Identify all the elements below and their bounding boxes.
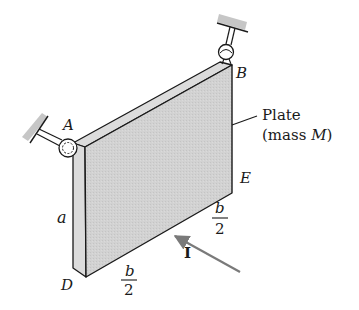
fraction-left-denominator: 2 [124, 281, 134, 299]
rod-b-left [226, 27, 230, 44]
fraction-right-numerator: b [215, 199, 225, 217]
label-side-a: a [57, 208, 67, 227]
wall-support-b [217, 14, 248, 45]
label-plate-mass: (mass M) [262, 126, 332, 144]
ball-joint-b-icon [219, 45, 234, 65]
ball-joint-a-icon [59, 139, 77, 157]
plate-leader-line [232, 116, 257, 125]
wall-support-a [22, 113, 62, 146]
rod-a-top [39, 129, 62, 140]
plate-mass-symbol: M [310, 126, 327, 144]
label-point-b: B [235, 64, 247, 82]
rod-b-right [231, 28, 235, 45]
label-plate: Plate [262, 106, 301, 124]
wall-hatch-a-icon [22, 113, 48, 141]
plate-side-edge [73, 143, 86, 277]
fraction-half-b-left: b 2 [121, 262, 137, 299]
plate-mass-prefix: (mass [262, 126, 311, 144]
fraction-half-b-right: b 2 [212, 199, 228, 238]
label-point-a: A [61, 116, 74, 134]
fraction-left-numerator: b [125, 262, 135, 280]
label-point-d: D [60, 276, 73, 294]
plate-diagram: A B D E a Plate (mass M) b 2 b 2 I [0, 0, 359, 310]
label-point-e: E [239, 169, 251, 187]
rod-a-bottom [37, 134, 60, 146]
plate-mass-suffix: ) [327, 126, 333, 144]
fraction-right-denominator: 2 [215, 220, 225, 238]
label-impulse: I [184, 244, 191, 262]
